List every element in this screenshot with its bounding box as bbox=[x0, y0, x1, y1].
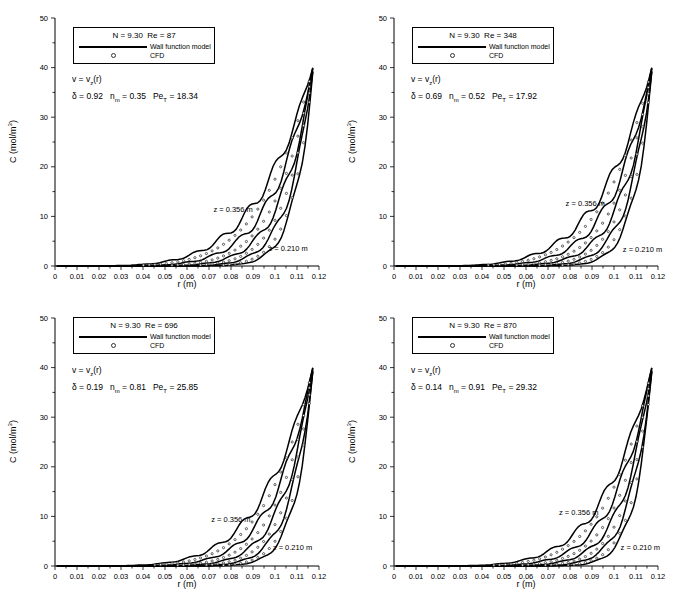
svg-text:20: 20 bbox=[379, 462, 387, 471]
legend-label-cfd: CFD bbox=[489, 52, 503, 59]
svg-text:0: 0 bbox=[44, 262, 48, 271]
x-axis-label: r (m) bbox=[147, 279, 227, 289]
line-sample-icon bbox=[76, 336, 150, 338]
svg-text:20: 20 bbox=[40, 162, 48, 171]
svg-text:0.02: 0.02 bbox=[92, 272, 107, 281]
svg-text:0.1: 0.1 bbox=[609, 272, 619, 281]
legend-row-model: Wall function model bbox=[415, 332, 551, 341]
legend-label-model: Wall function model bbox=[150, 333, 211, 340]
y-axis-label: C (mol/m3) bbox=[346, 97, 357, 187]
svg-text:50: 50 bbox=[379, 314, 387, 323]
legend-row-model: Wall function model bbox=[76, 42, 212, 51]
svg-text:0: 0 bbox=[392, 572, 396, 581]
svg-text:0.11: 0.11 bbox=[290, 572, 304, 581]
line-sample-icon bbox=[76, 46, 150, 48]
svg-text:40: 40 bbox=[379, 363, 387, 372]
legend-row-cfd: CFD bbox=[415, 51, 551, 60]
velocity-profile-text: v = vz(r) bbox=[72, 73, 198, 90]
svg-text:0.11: 0.11 bbox=[629, 572, 643, 581]
svg-text:30: 30 bbox=[379, 413, 387, 422]
velocity-profile-text: v = vz(r) bbox=[411, 73, 537, 90]
flow-condition-text: v = vz(r) δ = 0.14nm = 0.91PeT = 29.32 bbox=[411, 364, 537, 397]
legend-row-cfd: CFD bbox=[76, 341, 212, 350]
svg-text:10: 10 bbox=[379, 512, 387, 521]
svg-text:50: 50 bbox=[379, 14, 387, 23]
legend-label-model: Wall function model bbox=[489, 333, 550, 340]
svg-text:0.03: 0.03 bbox=[453, 572, 468, 581]
svg-text:0: 0 bbox=[44, 562, 48, 571]
svg-text:0: 0 bbox=[383, 262, 387, 271]
legend-label-model: Wall function model bbox=[150, 43, 211, 50]
svg-text:40: 40 bbox=[40, 363, 48, 372]
x-axis-label: r (m) bbox=[486, 279, 566, 289]
y-axis-label: C (mol/m3) bbox=[346, 397, 357, 487]
x-axis-label: r (m) bbox=[147, 579, 227, 589]
z-annotation-low: z = 0.210 m bbox=[273, 543, 312, 552]
model-parameters-text: δ = 0.19nm = 0.81PeT = 25.85 bbox=[72, 381, 198, 398]
svg-text:0.12: 0.12 bbox=[651, 572, 666, 581]
svg-text:0.02: 0.02 bbox=[92, 572, 107, 581]
velocity-profile-text: v = vz(r) bbox=[72, 364, 198, 381]
z-annotation-high: z = 0.356 m bbox=[211, 515, 250, 524]
legend-box: N = 9.30 Re = 348 Wall function model CF… bbox=[412, 27, 554, 64]
flow-condition-text: v = vz(r) δ = 0.92nm = 0.35PeT = 18.34 bbox=[72, 73, 198, 106]
svg-text:10: 10 bbox=[379, 212, 387, 221]
svg-text:0.01: 0.01 bbox=[409, 572, 424, 581]
circle-marker-icon bbox=[76, 53, 150, 58]
svg-text:0.09: 0.09 bbox=[246, 572, 261, 581]
legend-label-cfd: CFD bbox=[150, 342, 164, 349]
legend-row-cfd: CFD bbox=[415, 341, 551, 350]
svg-text:0.12: 0.12 bbox=[651, 272, 666, 281]
svg-text:0.1: 0.1 bbox=[270, 272, 280, 281]
legend-title: N = 9.30 Re = 696 bbox=[76, 321, 212, 330]
svg-text:0: 0 bbox=[53, 272, 57, 281]
svg-text:0.1: 0.1 bbox=[270, 572, 280, 581]
flow-condition-text: v = vz(r) δ = 0.19nm = 0.81PeT = 25.85 bbox=[72, 364, 198, 397]
panel-top-right: 00.010.020.030.040.050.060.070.080.090.1… bbox=[339, 0, 678, 300]
z-annotation-low: z = 0.210 m bbox=[268, 244, 307, 253]
legend-label-model: Wall function model bbox=[489, 43, 550, 50]
svg-text:0.1: 0.1 bbox=[609, 572, 619, 581]
legend-label-cfd: CFD bbox=[150, 52, 164, 59]
svg-text:50: 50 bbox=[40, 14, 48, 23]
circle-marker-icon bbox=[415, 343, 489, 348]
svg-text:0.01: 0.01 bbox=[70, 272, 85, 281]
legend-box: N = 9.30 Re = 696 Wall function model CF… bbox=[73, 317, 215, 354]
svg-text:30: 30 bbox=[40, 413, 48, 422]
line-sample-icon bbox=[415, 336, 489, 338]
z-annotation-high: z = 0.356 m bbox=[213, 205, 252, 214]
svg-text:0.02: 0.02 bbox=[431, 272, 446, 281]
svg-text:0.03: 0.03 bbox=[453, 272, 468, 281]
svg-text:0: 0 bbox=[53, 572, 57, 581]
flow-condition-text: v = vz(r) δ = 0.69nm = 0.52PeT = 17.92 bbox=[411, 73, 537, 106]
svg-text:0.02: 0.02 bbox=[431, 572, 446, 581]
svg-text:20: 20 bbox=[379, 162, 387, 171]
y-axis-label: C (mol/m3) bbox=[7, 97, 18, 187]
svg-text:0.03: 0.03 bbox=[114, 272, 129, 281]
svg-text:0.11: 0.11 bbox=[629, 272, 643, 281]
svg-text:0.11: 0.11 bbox=[290, 272, 304, 281]
svg-text:0.03: 0.03 bbox=[114, 572, 129, 581]
svg-text:30: 30 bbox=[379, 113, 387, 122]
legend-row-model: Wall function model bbox=[415, 42, 551, 51]
velocity-profile-text: v = vz(r) bbox=[411, 364, 537, 381]
x-axis-label: r (m) bbox=[486, 579, 566, 589]
svg-text:0.01: 0.01 bbox=[70, 572, 85, 581]
legend-label-cfd: CFD bbox=[489, 342, 503, 349]
legend-row-model: Wall function model bbox=[76, 332, 212, 341]
svg-text:10: 10 bbox=[40, 512, 48, 521]
panel-bottom-right: 00.010.020.030.040.050.060.070.080.090.1… bbox=[339, 300, 678, 600]
svg-text:0.09: 0.09 bbox=[585, 272, 600, 281]
svg-text:0: 0 bbox=[392, 272, 396, 281]
circle-marker-icon bbox=[76, 343, 150, 348]
model-parameters-text: δ = 0.92nm = 0.35PeT = 18.34 bbox=[72, 90, 198, 107]
svg-text:50: 50 bbox=[40, 314, 48, 323]
svg-text:0.01: 0.01 bbox=[409, 272, 424, 281]
svg-text:10: 10 bbox=[40, 212, 48, 221]
svg-text:40: 40 bbox=[40, 63, 48, 72]
panel-bottom-left: 00.010.020.030.040.050.060.070.080.090.1… bbox=[0, 300, 339, 600]
legend-title: N = 9.30 Re = 870 bbox=[415, 321, 551, 330]
svg-text:20: 20 bbox=[40, 462, 48, 471]
svg-text:30: 30 bbox=[40, 113, 48, 122]
legend-row-cfd: CFD bbox=[76, 51, 212, 60]
